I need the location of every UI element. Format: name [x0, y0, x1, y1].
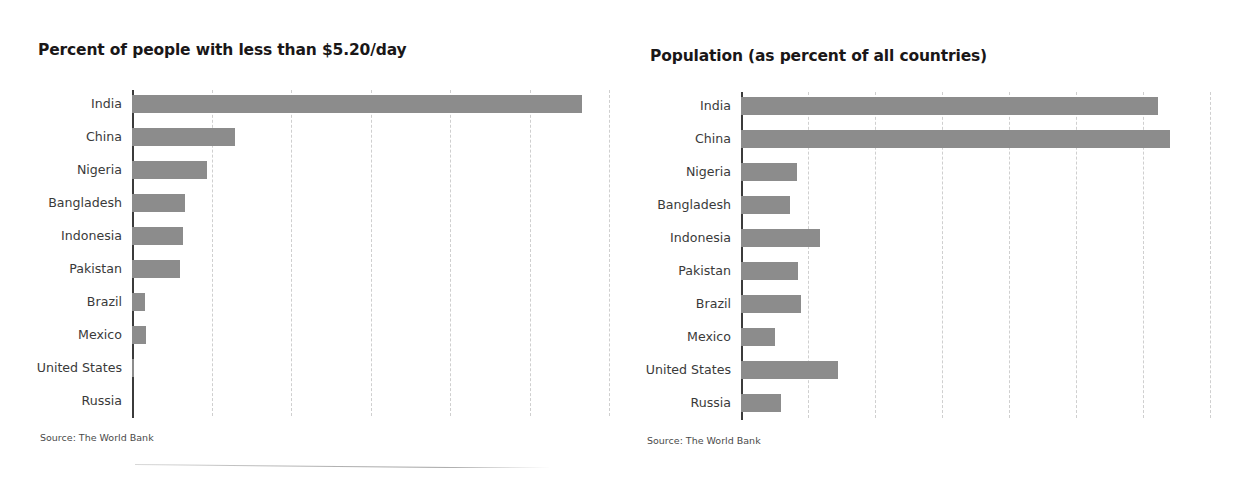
bar-row: Indonesia: [0, 226, 620, 259]
bar-row: Mexico: [630, 327, 1230, 360]
category-label-bangladesh: Bangladesh: [630, 196, 731, 214]
bar-row: Pakistan: [630, 261, 1230, 294]
source-note-poverty: Source: The World Bank: [40, 432, 154, 443]
category-label-indonesia: Indonesia: [0, 227, 122, 245]
bar-brazil: [132, 293, 145, 311]
category-label-united-states: United States: [630, 361, 731, 379]
category-label-nigeria: Nigeria: [0, 161, 122, 179]
bar-chart-population: IndiaChinaNigeriaBangladeshIndonesiaPaki…: [630, 90, 1230, 420]
bar-bangladesh: [132, 194, 185, 212]
bar-row: Pakistan: [0, 259, 620, 292]
bar-nigeria: [132, 161, 207, 179]
category-label-mexico: Mexico: [0, 326, 122, 344]
bar-mexico: [132, 326, 146, 344]
bar-row: Bangladesh: [0, 193, 620, 226]
category-label-indonesia: Indonesia: [630, 229, 731, 247]
category-label-bangladesh: Bangladesh: [0, 194, 122, 212]
bar-row: Indonesia: [630, 228, 1230, 261]
category-label-india: India: [630, 97, 731, 115]
category-label-china: China: [630, 130, 731, 148]
category-label-russia: Russia: [0, 392, 122, 410]
category-label-pakistan: Pakistan: [0, 260, 122, 278]
bar-chart-poverty: IndiaChinaNigeriaBangladeshIndonesiaPaki…: [0, 88, 620, 418]
category-label-brazil: Brazil: [630, 295, 731, 313]
bar-india: [132, 95, 582, 113]
bar-bangladesh: [741, 196, 790, 214]
source-note-population: Source: The World Bank: [647, 435, 761, 446]
bar-row: China: [0, 127, 620, 160]
category-label-nigeria: Nigeria: [630, 163, 731, 181]
bar-pakistan: [741, 262, 798, 280]
bar-united-states: [741, 361, 838, 379]
bar-row: Mexico: [0, 325, 620, 358]
bar-russia: [741, 394, 781, 412]
bar-row: United States: [0, 358, 620, 391]
category-label-mexico: Mexico: [630, 328, 731, 346]
bar-indonesia: [132, 227, 183, 245]
bar-row: India: [630, 96, 1230, 129]
bar-indonesia: [741, 229, 820, 247]
category-label-united-states: United States: [0, 359, 122, 377]
category-label-russia: Russia: [630, 394, 731, 412]
scan-artifact-line: [135, 463, 555, 468]
page-title-population: Population (as percent of all countries): [650, 47, 987, 65]
bar-row: Nigeria: [0, 160, 620, 193]
bar-mexico: [741, 328, 775, 346]
bar-china: [132, 128, 235, 146]
bar-china: [741, 130, 1170, 148]
page-title-poverty: Percent of people with less than $5.20/d…: [38, 41, 406, 59]
bar-row: Brazil: [630, 294, 1230, 327]
chart-panel-poverty: Percent of people with less than $5.20/d…: [0, 0, 630, 481]
bar-pakistan: [132, 260, 180, 278]
bar-india: [741, 97, 1158, 115]
bar-row: Bangladesh: [630, 195, 1230, 228]
bar-row: United States: [630, 360, 1230, 393]
chart-panel-population: Population (as percent of all countries)…: [630, 0, 1234, 481]
bar-row: China: [630, 129, 1230, 162]
bar-row: Brazil: [0, 292, 620, 325]
bar-united-states: [132, 359, 134, 377]
category-label-pakistan: Pakistan: [630, 262, 731, 280]
category-label-brazil: Brazil: [0, 293, 122, 311]
bar-row: Nigeria: [630, 162, 1230, 195]
category-label-india: India: [0, 95, 122, 113]
bar-nigeria: [741, 163, 797, 181]
bar-row: Russia: [0, 391, 620, 424]
category-label-china: China: [0, 128, 122, 146]
bar-row: Russia: [630, 393, 1230, 426]
bar-brazil: [741, 295, 801, 313]
bar-row: India: [0, 94, 620, 127]
